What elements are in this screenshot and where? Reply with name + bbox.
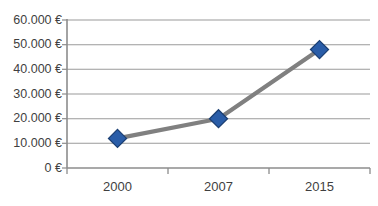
line-chart: 60.000 € 50.000 € 40.000 € 30.000 € 20.0… bbox=[0, 0, 378, 206]
xtick-label-2015: 2015 bbox=[289, 180, 350, 193]
xtick-label-2007: 2007 bbox=[188, 180, 249, 193]
category-axis-labels: 2000 2007 2015 bbox=[0, 0, 378, 206]
xtick-label-2000: 2000 bbox=[87, 180, 148, 193]
